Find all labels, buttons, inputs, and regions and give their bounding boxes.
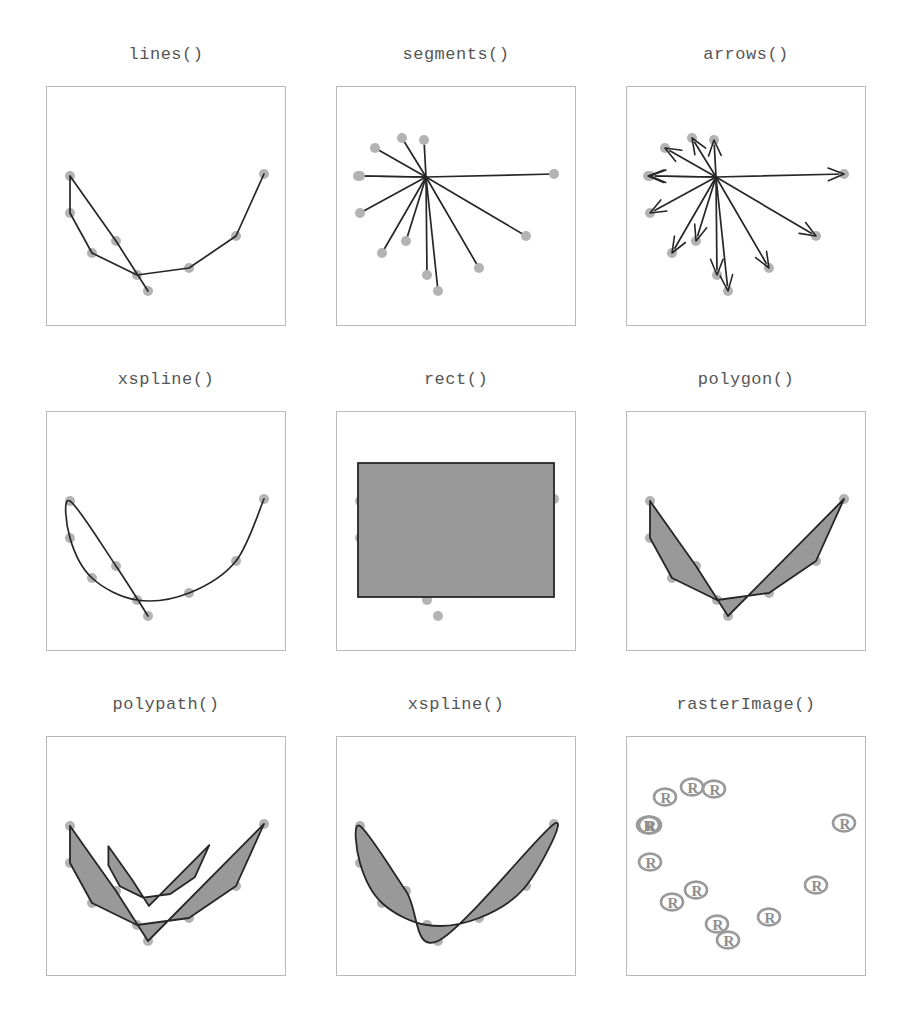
svg-text:R: R xyxy=(724,933,735,949)
svg-text:R: R xyxy=(668,895,679,911)
svg-text:R: R xyxy=(710,782,721,798)
arrow-shaft xyxy=(716,177,717,275)
panel-title-polygon: polygon() xyxy=(626,370,866,389)
panel-title-arrows: arrows() xyxy=(626,45,866,64)
panel-title-polypath: polypath() xyxy=(46,695,286,714)
r-logo-icon: R xyxy=(685,882,707,899)
arrow-shaft xyxy=(648,176,716,177)
svg-text:R: R xyxy=(661,790,672,806)
data-point xyxy=(419,135,429,145)
r-logo-icon: R xyxy=(639,854,661,871)
data-point xyxy=(397,133,407,143)
panel-plot-segments xyxy=(336,86,576,326)
data-point xyxy=(355,208,365,218)
r-logo-icon: R xyxy=(681,779,703,796)
panel-arrows: arrows() xyxy=(626,86,866,326)
panel-plot-arrows xyxy=(626,86,866,326)
panel-polygon: polygon() xyxy=(626,411,866,651)
panel-segments: segments() xyxy=(336,86,576,326)
r-logo-icon: R xyxy=(654,789,676,806)
segment-line xyxy=(358,176,426,177)
svg-text:R: R xyxy=(840,816,851,832)
svg-text:R: R xyxy=(765,910,776,926)
data-point xyxy=(521,231,531,241)
svg-text:R: R xyxy=(692,883,703,899)
panel-title-rasterimage: rasterImage() xyxy=(626,695,866,714)
segment-line xyxy=(426,177,427,275)
panel-xspline-fill: xspline() xyxy=(336,736,576,976)
panel-xspline-open: xspline() xyxy=(46,411,286,651)
polygon-shape xyxy=(650,499,844,616)
svg-text:R: R xyxy=(812,878,823,894)
segment-line xyxy=(426,174,554,177)
arrow-head xyxy=(665,148,682,161)
r-logo-icon: R xyxy=(758,909,780,926)
xspline-closed-shape xyxy=(356,823,558,943)
svg-text:R: R xyxy=(646,855,657,871)
r-graphics-figure: lines()segments()arrows()xspline()rect()… xyxy=(0,0,908,1020)
arrow-shaft xyxy=(716,174,844,177)
panel-title-lines: lines() xyxy=(46,45,286,64)
panel-title-xspline-fill: xspline() xyxy=(336,695,576,714)
arrow-shaft xyxy=(665,148,716,177)
panel-rect: rect() xyxy=(336,411,576,651)
arrow-head xyxy=(799,223,816,236)
data-point xyxy=(353,171,363,181)
panel-plot-xspline-open xyxy=(46,411,286,651)
panel-polypath: polypath() xyxy=(46,736,286,976)
r-logo-icon: R xyxy=(833,815,855,832)
arrow-head xyxy=(756,251,769,268)
r-logo-icon: R xyxy=(661,894,683,911)
svg-text:R: R xyxy=(713,917,724,933)
svg-text:R: R xyxy=(688,780,699,796)
polypath-shape xyxy=(70,824,264,941)
panel-plot-rect xyxy=(336,411,576,651)
panel-lines: lines() xyxy=(46,86,286,326)
segment-line xyxy=(375,148,426,177)
data-point xyxy=(377,248,387,258)
panel-plot-lines xyxy=(46,86,286,326)
panel-title-xspline-open: xspline() xyxy=(46,370,286,389)
r-logo-icon: R xyxy=(703,781,725,798)
data-point xyxy=(433,611,443,621)
segment-line xyxy=(426,177,526,236)
panel-title-rect: rect() xyxy=(336,370,576,389)
segment-line xyxy=(424,140,426,177)
data-point xyxy=(422,270,432,280)
data-point xyxy=(433,286,443,296)
data-point xyxy=(370,143,380,153)
data-point xyxy=(549,169,559,179)
r-logo-icon: R xyxy=(717,932,739,949)
r-logo-icon: R xyxy=(805,877,827,894)
rect-shape xyxy=(358,463,554,597)
svg-text:R: R xyxy=(644,818,655,834)
panel-plot-polygon xyxy=(626,411,866,651)
arrow-shaft xyxy=(716,177,816,236)
arrow-head xyxy=(672,236,685,253)
arrow-head xyxy=(692,138,706,155)
data-point xyxy=(401,236,411,246)
r-logo-icon: R xyxy=(706,916,728,933)
panel-rasterimage: rasterImage()RRRRRRRRRRRRR xyxy=(626,736,866,976)
panel-title-segments: segments() xyxy=(336,45,576,64)
panel-plot-xspline-fill xyxy=(336,736,576,976)
panel-plot-polypath xyxy=(46,736,286,976)
panel-plot-rasterimage: RRRRRRRRRRRRR xyxy=(626,736,866,976)
data-point xyxy=(474,263,484,273)
arrow-head xyxy=(650,200,667,213)
